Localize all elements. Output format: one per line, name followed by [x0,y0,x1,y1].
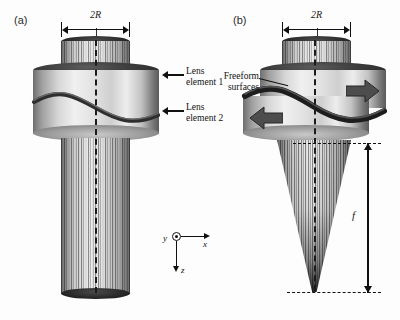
dimension-extension-right [129,22,130,37]
panel-b: (b) 2R [225,0,400,320]
panel-b-letter: (b) [233,14,246,26]
panel-a-aperture-label: 2R [90,9,101,20]
dimension-arrow-right-icon [123,26,129,34]
lens-element-2-callout-arrow [162,107,184,115]
y-axis-label: y [163,233,167,243]
z-axis-arrow-icon [173,266,179,272]
lower-element-shift-arrow-left-icon [249,106,283,130]
focal-arrow-head-bottom-icon [364,286,372,293]
y-axis-out-of-page-icon [172,232,181,241]
dimension-arrow-left-icon [283,26,289,34]
panel-a-optical-axis [95,40,97,293]
figure-root: (a) 2R [0,0,400,320]
lens-element-1-callout-arrow [162,71,184,79]
dimension-line [66,29,125,30]
focal-measure-line [367,143,368,293]
x-axis-arrow-icon [204,233,210,239]
dimension-line [287,29,346,30]
panel-b-optical-axis [314,40,316,291]
freeform-surfaces-callout-label: Freeform surfaces [203,71,259,93]
panel-a-letter: (a) [14,14,27,26]
focal-length-measure: f [360,143,376,293]
x-axis-label: x [203,239,207,249]
panel-b-aperture-label: 2R [311,9,322,20]
arrow-shaft [168,110,184,111]
dimension-extension-right [350,22,351,37]
upper-element-shift-arrow-right-icon [346,79,380,103]
dimension-arrow-right-icon [344,26,350,34]
focal-length-label: f [352,209,355,221]
arrow-shaft [168,74,184,75]
dimension-arrow-left-icon [62,26,68,34]
coordinate-gizmo: y x z [172,232,216,278]
x-axis-line [181,236,205,237]
z-axis-label: z [181,265,185,275]
z-axis-line [176,241,177,267]
